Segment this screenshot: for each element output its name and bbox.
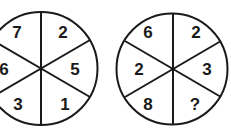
right-segment-top-left: 6 — [143, 23, 152, 42]
right-segment-bottom-right-unknown: ? — [190, 95, 200, 114]
right-segment-bottom-left: 8 — [143, 95, 152, 114]
puzzle-figure: 7 2 5 1 3 6 6 2 3 ? 8 2 — [0, 0, 231, 131]
left-segment-bottom-right: 1 — [60, 95, 69, 114]
right-segment-top-right: 2 — [191, 23, 200, 42]
left-segment-top-right: 2 — [58, 23, 67, 42]
left-segment-bottom-left: 3 — [13, 95, 22, 114]
left-segment-top-left: 7 — [12, 23, 21, 42]
left-segment-left: 6 — [0, 60, 9, 79]
right-segment-left: 2 — [134, 60, 143, 79]
left-segment-right: 5 — [70, 60, 79, 79]
right-segment-right: 3 — [202, 60, 211, 79]
